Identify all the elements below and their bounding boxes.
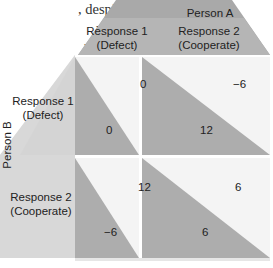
payoff-b-r2c2: 6 [202,226,208,238]
payoff-b-r2c1: −6 [104,226,117,238]
payoff-a-r2c1: 12 [138,181,151,193]
payoff-a-r2c2: 6 [235,181,241,193]
payoff-b-r1c2: 12 [200,124,213,136]
row-player-label: Person B [0,138,14,152]
payoff-b-r1c1: 0 [106,124,112,136]
row-label-line: (Cooperate) [8,204,74,218]
row-label-defect: Response 1 (Defect) [10,94,76,122]
row-label-cooperate: Response 2 (Cooperate) [8,190,74,218]
column-label-line: (Defect) [80,38,154,52]
column-player-label: Person A [150,6,270,20]
column-label-line: Response 2 [162,24,256,38]
row-label-line: Response 2 [8,190,74,204]
payoff-a-r1c2: −6 [233,78,246,90]
column-label-line: (Cooperate) [162,38,256,52]
column-label-defect: Response 1 (Defect) [80,24,154,52]
row-player-text: Person B [0,118,14,172]
column-label-cooperate: Response 2 (Cooperate) [162,24,256,52]
payoff-a-r1c1: 0 [140,78,146,90]
row-label-line: (Defect) [10,108,76,122]
column-label-line: Response 1 [80,24,154,38]
row-label-line: Response 1 [10,94,76,108]
